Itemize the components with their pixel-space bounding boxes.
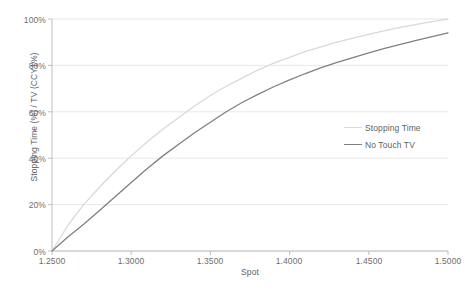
y-tick-label-20: 20% xyxy=(4,200,46,210)
x-tick-label-1-5000: 1.5000 xyxy=(418,256,475,266)
x-axis-title: Spot xyxy=(52,267,448,277)
y-tick-label-60: 60% xyxy=(4,108,46,118)
legend-item-stopping-time[interactable]: Stopping Time xyxy=(344,119,421,136)
y-axis-title: Stopping Time (%) / TV (CCY1%) xyxy=(29,22,39,212)
legend-swatch-stopping-time xyxy=(344,127,362,128)
x-tick-label-1-3500: 1.3500 xyxy=(180,256,240,266)
x-tick-label-1-2500: 1.2500 xyxy=(22,256,82,266)
x-tick-label-1-4000: 1.4000 xyxy=(259,256,319,266)
x-tick-label-1-3000: 1.3000 xyxy=(101,256,161,266)
legend-label-no-touch-tv: No Touch TV xyxy=(365,140,415,150)
y-tick-label-100: 100% xyxy=(4,15,46,25)
chart-legend: Stopping Time No Touch TV xyxy=(344,119,421,153)
y-tick-label-40: 40% xyxy=(4,154,46,164)
x-tick-label-1-4500: 1.4500 xyxy=(339,256,399,266)
y-tick-label-80: 80% xyxy=(4,61,46,71)
legend-label-stopping-time: Stopping Time xyxy=(365,123,421,133)
stopping-time-chart: 100% 80% 60% 40% 20% 0% 1.2500 1.3000 1.… xyxy=(0,0,475,291)
legend-swatch-no-touch-tv xyxy=(344,144,362,145)
legend-item-no-touch-tv[interactable]: No Touch TV xyxy=(344,136,421,153)
